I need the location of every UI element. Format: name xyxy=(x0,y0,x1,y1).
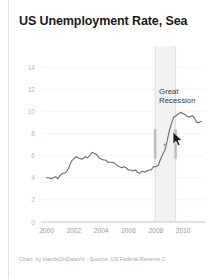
y-axis-tick-label: 6 xyxy=(31,152,35,159)
x-axis-tick-label: 2002 xyxy=(66,227,81,234)
y-axis-tick-label: 0 xyxy=(31,219,35,226)
x-axis-tick-label: 2006 xyxy=(121,227,136,234)
x-axis-tick-label: 2000 xyxy=(39,227,54,234)
unemployment-line-group xyxy=(46,112,201,178)
band-drag-handle-left[interactable] xyxy=(154,129,157,159)
y-axis-tick-label: 10 xyxy=(28,108,36,115)
recession-shaded-band xyxy=(155,46,176,222)
y-axis-tick-label: 4 xyxy=(31,174,35,181)
annotation-text-line-2: Recession xyxy=(159,96,195,105)
x-axis-tick-label: 2008 xyxy=(148,227,163,234)
chart-card: US Unemployment Rate, Sea 02468101214 20… xyxy=(8,0,210,279)
y-axis-tick-label: 14 xyxy=(28,64,36,71)
x-axis-tick-label: 2004 xyxy=(94,227,109,234)
line-chart-svg[interactable]: 02468101214 200020022004200620082010 Gre… xyxy=(9,44,210,238)
chart-screenshot: US Unemployment Rate, Sea 02468101214 20… xyxy=(0,0,210,279)
band-drag-handle-right[interactable] xyxy=(174,129,177,159)
unemployment-rate-line xyxy=(46,112,201,178)
x-axis-tick-labels: 200020022004200620082010 xyxy=(39,227,191,234)
plot-area[interactable]: 02468101214 200020022004200620082010 Gre… xyxy=(9,44,210,238)
y-axis-tick-label: 8 xyxy=(31,130,35,137)
recession-band-group xyxy=(155,46,176,222)
chart-caption: Chart: by HandsOnDataViz · Source: US Fe… xyxy=(19,256,166,262)
annotation-anchor-dot[interactable] xyxy=(163,143,165,145)
annotation-anchor-dot[interactable] xyxy=(163,143,165,145)
page-title: US Unemployment Rate, Sea xyxy=(19,14,187,28)
annotation-text-line-1: Great xyxy=(159,87,179,96)
y-axis-tick-label: 2 xyxy=(31,196,35,203)
gridlines-group xyxy=(41,67,205,200)
y-axis-tick-labels: 02468101214 xyxy=(28,64,36,226)
x-axis-tick-label: 2010 xyxy=(176,227,191,234)
y-axis-tick-label: 12 xyxy=(28,86,36,93)
